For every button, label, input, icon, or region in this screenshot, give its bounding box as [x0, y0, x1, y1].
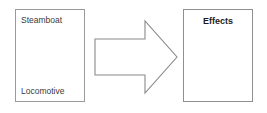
diagram-canvas: Steamboat Locomotive Effects	[0, 0, 267, 113]
source-box-label-locomotive: Locomotive	[21, 86, 64, 96]
right-arrow-icon	[92, 18, 180, 96]
target-box: Effects	[183, 9, 253, 102]
source-box: Steamboat Locomotive	[15, 9, 85, 102]
target-box-title: Effects	[184, 16, 252, 26]
source-box-label-steamboat: Steamboat	[21, 15, 62, 25]
